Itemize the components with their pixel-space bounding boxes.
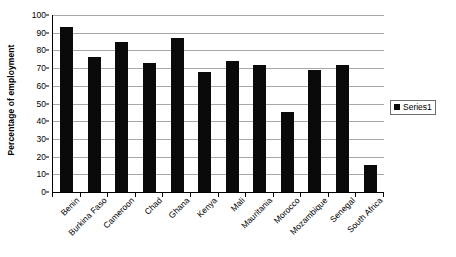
bar[interactable] bbox=[308, 70, 321, 192]
y-axis-tick-mark bbox=[46, 138, 49, 139]
x-axis-category-labels: BeninBurkina FasoCameroonChadGhanaKenyaM… bbox=[52, 196, 392, 257]
bar-slot bbox=[136, 15, 164, 192]
bars-group bbox=[53, 15, 384, 192]
bar[interactable] bbox=[281, 112, 294, 192]
legend-entry-label: Series1 bbox=[403, 103, 432, 112]
y-axis-tick-label: 100 bbox=[22, 11, 46, 20]
y-axis-tick-label: 10 bbox=[22, 170, 46, 179]
y-axis-tick-labels: 0102030405060708090100 bbox=[22, 10, 49, 193]
bar[interactable] bbox=[143, 63, 156, 192]
y-axis-tick-label: 60 bbox=[22, 82, 46, 91]
bar-chart: Percentage of employment 010203040506070… bbox=[0, 0, 456, 257]
y-axis-tick-label: 30 bbox=[22, 135, 46, 144]
bar[interactable] bbox=[226, 61, 239, 192]
y-axis-tick-label: 70 bbox=[22, 64, 46, 73]
y-axis-tick-mark bbox=[46, 85, 49, 86]
y-axis-tick-label: 0 bbox=[22, 188, 46, 197]
bar-slot bbox=[329, 15, 357, 192]
y-axis-tick-mark bbox=[46, 32, 49, 33]
y-axis-tick-label: 50 bbox=[22, 99, 46, 108]
bar[interactable] bbox=[88, 57, 101, 192]
bar-slot bbox=[191, 15, 219, 192]
y-axis-tick-mark bbox=[46, 174, 49, 175]
y-axis-title: Percentage of employment bbox=[0, 0, 22, 200]
legend[interactable]: Series1 bbox=[390, 100, 436, 115]
x-axis-category-label: Benin bbox=[59, 196, 81, 218]
bar-slot bbox=[274, 15, 302, 192]
bar[interactable] bbox=[364, 165, 377, 192]
bar-slot bbox=[108, 15, 136, 192]
bar[interactable] bbox=[253, 65, 266, 192]
bar[interactable] bbox=[336, 65, 349, 192]
y-axis-tick-mark bbox=[46, 156, 49, 157]
y-axis-tick-label: 40 bbox=[22, 117, 46, 126]
bar-slot bbox=[53, 15, 81, 192]
y-axis-tick-mark bbox=[46, 192, 49, 193]
bar[interactable] bbox=[171, 38, 184, 192]
bar-slot bbox=[218, 15, 246, 192]
y-axis-tick-mark bbox=[46, 103, 49, 104]
bar[interactable] bbox=[115, 42, 128, 192]
bar[interactable] bbox=[60, 27, 73, 192]
y-axis-tick-mark bbox=[46, 50, 49, 51]
bar-slot bbox=[163, 15, 191, 192]
y-axis-title-label: Percentage of employment bbox=[6, 44, 16, 155]
bar-slot bbox=[301, 15, 329, 192]
y-axis-tick-label: 90 bbox=[22, 28, 46, 37]
plot-area bbox=[52, 15, 384, 193]
y-axis-tick-label: 20 bbox=[22, 152, 46, 161]
y-axis-tick-label: 80 bbox=[22, 46, 46, 55]
legend-swatch-icon bbox=[394, 104, 400, 110]
bar[interactable] bbox=[198, 72, 211, 192]
y-axis-tick-mark bbox=[46, 121, 49, 122]
bar-slot bbox=[356, 15, 384, 192]
bar-slot bbox=[246, 15, 274, 192]
bar-slot bbox=[81, 15, 109, 192]
y-axis-tick-mark bbox=[46, 68, 49, 69]
y-axis-tick-mark bbox=[46, 15, 49, 16]
